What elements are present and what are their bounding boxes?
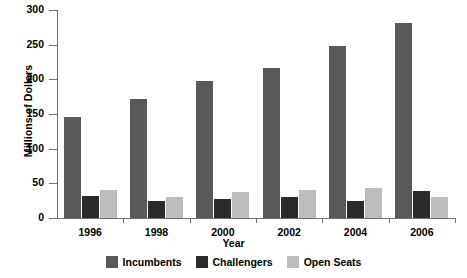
y-axis-tick-label: 150 [26, 107, 44, 119]
legend-swatch-icon [106, 256, 118, 268]
bar-challengers-2006[interactable] [413, 191, 430, 218]
legend-item-open-seats[interactable]: Open Seats [287, 256, 362, 268]
y-axis-tick-label: 250 [26, 38, 44, 50]
bar-group-bars [256, 10, 322, 218]
bar-challengers-1998[interactable] [148, 201, 165, 218]
y-axis-tick: 0 [49, 218, 57, 219]
y-axis-tick: 50 [49, 183, 57, 184]
bar-chart: Millions of Dollars 05010015020025030019… [0, 0, 467, 278]
legend-label: Open Seats [304, 256, 362, 268]
bar-incumbents-2004[interactable] [329, 46, 346, 218]
y-axis-tick-label: 50 [32, 176, 44, 188]
bar-group-bars [57, 10, 123, 218]
bar-open-seats-2002[interactable] [299, 190, 316, 218]
chart-legend: IncumbentsChallengersOpen Seats [0, 256, 467, 268]
bar-group-bars [389, 10, 455, 218]
y-axis-tick-label: 200 [26, 72, 44, 84]
y-axis-tick-label: 100 [26, 142, 44, 154]
bar-group [389, 10, 455, 218]
x-axis-title: Year [0, 237, 467, 249]
x-axis-tick [123, 218, 124, 223]
legend-swatch-icon [196, 256, 208, 268]
bar-open-seats-1998[interactable] [166, 197, 183, 218]
x-axis-tick [455, 218, 456, 223]
bar-group [123, 10, 189, 218]
y-axis-tick: 300 [49, 10, 57, 11]
x-axis-tick [322, 218, 323, 223]
bar-incumbents-1996[interactable] [64, 117, 81, 218]
legend-item-incumbents[interactable]: Incumbents [106, 256, 182, 268]
bar-open-seats-1996[interactable] [100, 190, 117, 218]
bar-open-seats-2006[interactable] [431, 197, 448, 218]
y-axis-tick-label: 300 [26, 3, 44, 15]
legend-swatch-icon [287, 256, 299, 268]
legend-item-challengers[interactable]: Challengers [196, 256, 273, 268]
bar-group [322, 10, 388, 218]
y-axis-tick: 100 [49, 149, 57, 150]
bar-challengers-1996[interactable] [82, 196, 99, 218]
y-axis-tick: 200 [49, 79, 57, 80]
x-axis-tick [190, 218, 191, 223]
bar-incumbents-2002[interactable] [263, 68, 280, 218]
bar-group [57, 10, 123, 218]
bar-challengers-2000[interactable] [214, 199, 231, 218]
y-axis-tick-label: 0 [38, 211, 44, 223]
y-axis-tick: 150 [49, 114, 57, 115]
x-axis-tick [256, 218, 257, 223]
bar-incumbents-2000[interactable] [196, 81, 213, 218]
legend-label: Challengers [213, 256, 273, 268]
y-axis-tick: 250 [49, 45, 57, 46]
bar-group-bars [190, 10, 256, 218]
bar-challengers-2004[interactable] [347, 201, 364, 218]
plot-area: 0501001502002503001996199820002002200420… [57, 10, 455, 218]
x-axis-tick [389, 218, 390, 223]
bar-group [190, 10, 256, 218]
bar-challengers-2002[interactable] [281, 197, 298, 218]
bar-group-bars [123, 10, 189, 218]
legend-label: Incumbents [123, 256, 182, 268]
bar-open-seats-2000[interactable] [232, 192, 249, 218]
bar-open-seats-2004[interactable] [365, 188, 382, 219]
bar-group [256, 10, 322, 218]
bar-incumbents-2006[interactable] [395, 23, 412, 218]
bar-group-bars [322, 10, 388, 218]
bar-incumbents-1998[interactable] [130, 99, 147, 218]
